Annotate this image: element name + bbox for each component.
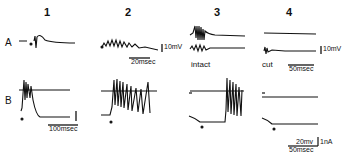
scale-a2-voltage: 10mV bbox=[164, 43, 182, 50]
scale-b4-time: 50msec bbox=[289, 146, 314, 153]
scale-a2-time: 20msec bbox=[131, 58, 156, 65]
scale-b1-time: 100msec bbox=[49, 125, 77, 132]
scale-a4-voltage: 10mV bbox=[323, 45, 341, 52]
scale-b4-current: 1nA bbox=[320, 138, 332, 145]
traces bbox=[0, 0, 344, 156]
label-intact: intact bbox=[191, 60, 210, 69]
label-cut: cut bbox=[262, 60, 273, 69]
scale-b4-voltage: 20mv bbox=[296, 138, 313, 145]
scale-a4-time: 50msec bbox=[289, 65, 314, 72]
